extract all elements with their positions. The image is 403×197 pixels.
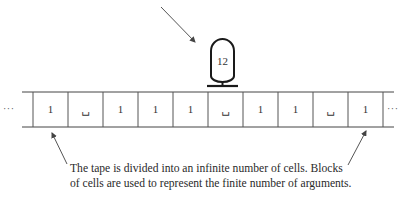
head-state-label: 12 — [211, 54, 234, 68]
tape-cell: 1 — [138, 100, 173, 118]
tape-left-ellipsis: ··· — [3, 100, 15, 118]
tape-cell: 1 — [103, 100, 138, 118]
head-pointer-arrow — [161, 7, 195, 42]
tape-cell: ␣ — [313, 100, 348, 118]
tape-cell: ␣ — [208, 100, 243, 118]
tape-caption: The tape is divided into an infinite num… — [70, 161, 400, 191]
caption-arrow-right — [348, 131, 366, 165]
tape-cell: 1 — [348, 100, 383, 118]
tape-cell: 1 — [33, 100, 68, 118]
tape-cell: ␣ — [68, 100, 103, 118]
tape-cell: 1 — [278, 100, 313, 118]
tape-cell: 1 — [173, 100, 208, 118]
caption-line-1: The tape is divided into an infinite num… — [70, 161, 400, 176]
caption-arrow-left — [52, 133, 67, 164]
turing-tape-diagram: 12 ··· ··· 1 ␣ 1 1 1 ␣ 1 1 ␣ 1 The tape … — [0, 0, 403, 197]
tape-cell: 1 — [243, 100, 278, 118]
tape-right-ellipsis: ··· — [387, 100, 399, 118]
caption-line-2: of cells are used to represent the finit… — [70, 176, 400, 191]
